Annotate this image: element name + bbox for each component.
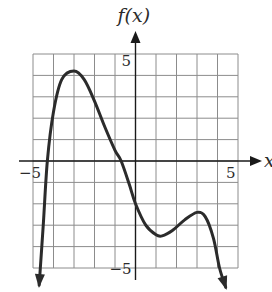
y-axis-arrow-icon (131, 31, 141, 43)
curve-right-end-arrow-icon (218, 275, 228, 290)
x-axis-arrow-icon (250, 156, 262, 166)
y-tick-label-5: 5 (122, 52, 132, 70)
x-tick-label-neg5: −5 (19, 164, 41, 182)
function-graph: x f(x) −5 5 5 −5 (0, 0, 272, 292)
x-axis-label: x (264, 149, 272, 171)
function-curve (39, 71, 226, 287)
x-tick-label-5: 5 (226, 164, 236, 182)
y-axis-label: f(x) (116, 4, 151, 26)
y-tick-label-neg5: −5 (110, 260, 132, 278)
